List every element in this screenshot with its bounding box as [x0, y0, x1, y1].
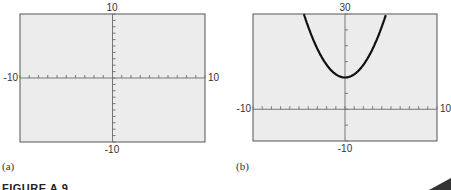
page-corner-decoration [429, 178, 451, 190]
y-max-label: 10 [106, 2, 118, 13]
figure-caption: FIGURE A.9 [2, 182, 68, 190]
panel-b-plot: 30 -10 -10 10 [226, 0, 451, 160]
panel-a-plot: 10 -10 -10 10 [0, 0, 225, 160]
panel-b: 30 -10 -10 10 [226, 0, 451, 160]
x-min-label: -10 [4, 72, 19, 83]
panel-a: 10 -10 -10 10 [0, 0, 225, 160]
y-max-label: 30 [339, 2, 351, 13]
x-max-label: 10 [208, 72, 220, 83]
y-min-label: -10 [338, 143, 353, 154]
x-max-label: 10 [440, 103, 451, 114]
x-min-label: -10 [237, 103, 252, 114]
y-min-label: -10 [105, 144, 120, 155]
panel-a-label: (a) [2, 160, 14, 172]
panel-b-label: (b) [236, 160, 249, 172]
